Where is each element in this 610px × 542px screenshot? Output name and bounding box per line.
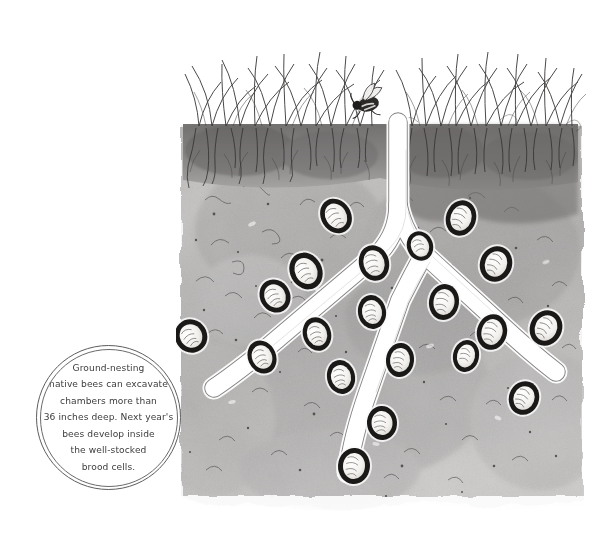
adult-bee — [346, 82, 387, 121]
left-grass-patch — [185, 52, 384, 126]
caption-text: Ground-nesting native bees can excavate … — [43, 360, 175, 475]
illustration-stage: Ground-nesting native bees can excavate … — [0, 0, 610, 542]
right-grass-patch — [396, 52, 586, 131]
caption-circle: Ground-nesting native bees can excavate … — [36, 345, 181, 490]
